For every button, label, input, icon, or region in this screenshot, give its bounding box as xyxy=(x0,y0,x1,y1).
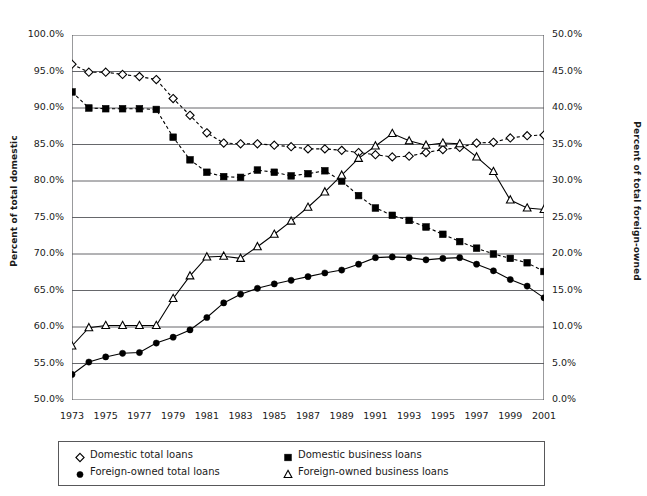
data-point-filled-circle xyxy=(457,255,463,261)
data-point-open-triangle xyxy=(355,154,363,161)
data-point-filled-square xyxy=(473,245,480,252)
data-point-filled-circle xyxy=(524,283,530,289)
data-point-filled-circle xyxy=(423,257,429,263)
data-point-open-diamond xyxy=(338,146,346,154)
data-point-filled-square xyxy=(322,167,329,174)
data-point-open-diamond xyxy=(439,146,447,154)
y-axis-left-tick: 95.0% xyxy=(12,65,64,76)
data-point-open-triangle xyxy=(220,252,228,259)
chart-legend: Domestic total loansDomestic business lo… xyxy=(58,441,545,486)
y-axis-left-tick: 100.0% xyxy=(12,28,64,39)
data-point-open-triangle xyxy=(490,167,498,174)
y-axis-right-tick: 0.0% xyxy=(552,393,604,404)
data-point-filled-square xyxy=(271,169,278,176)
data-point-filled-square xyxy=(220,173,227,180)
data-point-filled-circle xyxy=(119,350,125,356)
series-line xyxy=(72,134,544,346)
legend-label: Domestic total loans xyxy=(90,449,193,460)
data-point-open-diamond xyxy=(321,145,329,153)
data-point-open-diamond xyxy=(422,148,430,156)
data-point-open-diamond xyxy=(76,453,84,461)
data-point-filled-square xyxy=(288,173,295,180)
y-axis-right-tick: 20.0% xyxy=(552,247,604,258)
y-axis-right-tick: 5.0% xyxy=(552,357,604,368)
data-point-filled-square xyxy=(389,212,396,219)
data-point-open-diamond xyxy=(405,152,413,160)
data-point-filled-circle xyxy=(490,268,496,274)
data-point-filled-circle xyxy=(153,340,159,346)
data-point-filled-square xyxy=(204,169,211,176)
x-axis-tick: 2001 xyxy=(524,410,564,421)
data-point-filled-square xyxy=(86,105,93,112)
data-point-filled-circle xyxy=(288,277,294,283)
data-point-filled-circle xyxy=(170,334,176,340)
data-point-open-diamond xyxy=(220,139,228,147)
data-point-filled-circle xyxy=(77,471,83,477)
data-point-open-triangle xyxy=(152,321,160,328)
data-point-filled-square xyxy=(254,167,261,174)
data-point-filled-square xyxy=(406,217,413,224)
y-axis-right-tick: 15.0% xyxy=(552,284,604,295)
data-point-open-triangle xyxy=(506,196,514,203)
series-3 xyxy=(72,129,544,349)
data-point-open-diamond xyxy=(523,132,531,140)
data-point-filled-circle xyxy=(473,261,479,267)
data-point-filled-square xyxy=(541,268,544,275)
data-point-filled-square xyxy=(507,255,514,262)
data-point-open-diamond xyxy=(489,138,497,146)
data-point-filled-circle xyxy=(103,354,109,360)
data-point-filled-circle xyxy=(339,267,345,273)
data-point-open-diamond xyxy=(506,134,514,142)
data-point-filled-circle xyxy=(136,349,142,355)
data-point-open-triangle xyxy=(284,470,292,477)
data-point-filled-circle xyxy=(507,276,513,282)
data-point-filled-square xyxy=(440,231,447,238)
legend-marker-filled-square xyxy=(281,451,295,464)
data-point-open-diamond xyxy=(135,73,143,81)
data-point-filled-square xyxy=(355,192,362,199)
data-point-open-triangle xyxy=(119,321,127,328)
y-axis-right-tick: 30.0% xyxy=(552,174,604,185)
data-point-filled-circle xyxy=(355,261,361,267)
data-point-filled-circle xyxy=(237,291,243,297)
y-axis-left-tick: 85.0% xyxy=(12,138,64,149)
data-point-filled-circle xyxy=(406,255,412,261)
series-2 xyxy=(72,254,544,378)
data-point-filled-square xyxy=(285,454,292,461)
y-axis-left-title: Percent of total domestic xyxy=(9,101,19,301)
data-point-filled-circle xyxy=(204,314,210,320)
data-point-open-triangle xyxy=(287,217,295,224)
y-axis-left-tick: 90.0% xyxy=(12,101,64,112)
legend-label: Foreign-owned business loans xyxy=(298,466,448,477)
chart-container: Percent of total domestic Percent of tot… xyxy=(0,0,647,496)
data-point-filled-square xyxy=(119,105,126,112)
data-point-open-diamond xyxy=(388,153,396,161)
y-axis-left-tick: 80.0% xyxy=(12,174,64,185)
plot-area xyxy=(72,35,544,400)
y-axis-right-tick: 50.0% xyxy=(552,28,604,39)
data-point-open-diamond xyxy=(287,143,295,151)
data-point-filled-square xyxy=(102,105,109,112)
data-point-open-triangle xyxy=(388,129,396,136)
y-axis-left-tick: 50.0% xyxy=(12,393,64,404)
data-point-filled-circle xyxy=(86,359,92,365)
y-axis-left-tick: 75.0% xyxy=(12,211,64,222)
data-point-filled-square xyxy=(72,89,75,96)
data-point-open-diamond xyxy=(371,151,379,159)
data-point-filled-circle xyxy=(389,254,395,260)
data-point-filled-circle xyxy=(305,274,311,280)
data-point-open-diamond xyxy=(304,145,312,153)
legend-marker-filled-circle xyxy=(73,468,87,481)
data-point-open-diamond xyxy=(472,139,480,147)
data-point-filled-square xyxy=(153,106,160,113)
data-point-filled-circle xyxy=(254,285,260,291)
data-point-filled-square xyxy=(372,205,379,212)
y-axis-left-tick: 55.0% xyxy=(12,357,64,368)
data-point-open-diamond xyxy=(152,75,160,83)
legend-marker-open-diamond xyxy=(73,451,87,464)
data-point-open-triangle xyxy=(102,321,110,328)
y-axis-right-tick: 35.0% xyxy=(552,138,604,149)
data-point-open-triangle xyxy=(136,321,144,328)
data-point-filled-square xyxy=(136,105,143,112)
data-point-open-triangle xyxy=(523,204,531,211)
